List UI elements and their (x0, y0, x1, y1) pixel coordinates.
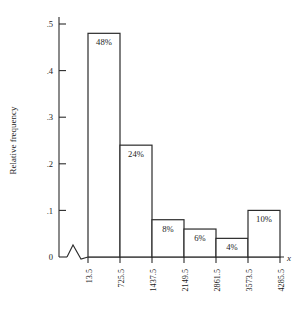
x-tick-label-725.5: 725.5 (117, 269, 126, 287)
x-axis-name: x (286, 253, 291, 263)
histogram-bar (88, 33, 120, 257)
x-tick-label-4285.5: 4285.5 (277, 269, 286, 292)
y-tick-label-.3: .3 (47, 112, 53, 122)
y-tick-label-0: 0 (49, 252, 53, 262)
y-axis-title: Relative frequency (8, 106, 18, 175)
bar-value-label: 10% (256, 214, 272, 224)
bar-value-label: 6% (194, 233, 205, 243)
bar-value-label: 8% (162, 224, 173, 234)
x-tick-label-1437.5: 1437.5 (149, 269, 158, 292)
chart-canvas: 0.1.2.3.4.5Relative frequency48%24%8%6%4… (0, 0, 298, 321)
y-tick-label-.5: .5 (47, 19, 53, 29)
bar-value-label: 24% (128, 149, 144, 159)
x-tick-label-2149.5: 2149.5 (181, 269, 190, 292)
x-axis-break-icon (67, 245, 88, 259)
bar-value-label: 4% (226, 242, 237, 252)
y-tick-label-.4: .4 (47, 66, 54, 76)
x-tick-label-2861.5: 2861.5 (213, 269, 222, 292)
histogram-chart: 0.1.2.3.4.5Relative frequency48%24%8%6%4… (0, 0, 298, 321)
bar-value-label: 48% (96, 37, 112, 47)
y-tick-label-.1: .1 (47, 206, 53, 216)
histogram-bar (120, 145, 152, 257)
x-tick-label-3573.5: 3573.5 (245, 269, 254, 292)
x-tick-label-13.5: 13.5 (85, 269, 94, 283)
y-tick-label-.2: .2 (47, 159, 53, 169)
